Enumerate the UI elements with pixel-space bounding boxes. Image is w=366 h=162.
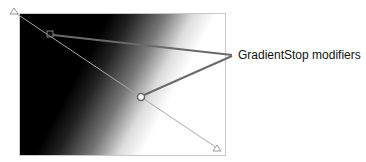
gradient-axis-line: [14, 12, 217, 148]
gradient-stop-2-icon[interactable]: [138, 94, 145, 101]
start-handle-icon[interactable]: [10, 8, 18, 14]
gradient-overlay: [0, 0, 366, 162]
callout-label: GradientStop modifiers: [238, 48, 361, 62]
callout-line-2: [144, 56, 232, 95]
callout-line-1: [53, 35, 232, 55]
